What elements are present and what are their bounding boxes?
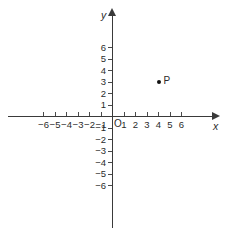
- origin-label: O: [114, 119, 122, 129]
- y-axis-tick: [108, 59, 112, 60]
- x-axis-tick: [147, 112, 148, 116]
- plotted-point-p-label: P: [164, 76, 171, 86]
- y-axis-tick-label: 3: [88, 77, 106, 87]
- y-axis-arrowhead-icon: [108, 8, 116, 16]
- y-axis-tick: [108, 139, 112, 140]
- y-axis-tick: [108, 82, 112, 83]
- x-axis-tick: [181, 112, 182, 116]
- x-axis-tick: [170, 112, 171, 116]
- y-axis-tick: [108, 105, 112, 106]
- x-axis-tick: [135, 112, 136, 116]
- y-axis-tick: [108, 70, 112, 71]
- y-axis-tick: [108, 185, 112, 186]
- y-axis-tick: [108, 174, 112, 175]
- x-axis-arrowhead-icon: [212, 112, 220, 120]
- x-axis-tick-label: 6: [173, 120, 191, 130]
- x-axis-tick: [55, 112, 56, 116]
- y-axis-tick: [108, 162, 112, 163]
- y-axis-tick-label: 5: [88, 54, 106, 64]
- x-axis-tick: [89, 112, 90, 116]
- y-axis-tick-label: 2: [88, 89, 106, 99]
- y-axis-tick: [108, 151, 112, 152]
- y-axis-line: [112, 14, 113, 228]
- y-axis-tick-label: 6: [88, 43, 106, 53]
- x-axis-tick: [158, 112, 159, 116]
- y-axis-tick: [108, 93, 112, 94]
- x-axis-tick: [43, 112, 44, 116]
- y-axis-tick-label: −1: [88, 123, 106, 133]
- y-axis-tick-label: 4: [88, 66, 106, 76]
- x-axis-tick: [101, 112, 102, 116]
- y-axis-tick-label: −5: [88, 169, 106, 179]
- y-axis-tick-label: −2: [88, 135, 106, 145]
- x-axis-label: x: [213, 121, 218, 132]
- y-axis-tick-label: −3: [88, 146, 106, 156]
- x-axis-tick: [78, 112, 79, 116]
- x-axis-tick: [124, 112, 125, 116]
- x-axis-tick: [66, 112, 67, 116]
- y-axis-label: y: [101, 10, 106, 21]
- plotted-point-p: [157, 80, 161, 84]
- coordinate-plane: −6−5−4−3−2−1123456654321−1−2−3−4−5−6 O x…: [0, 0, 226, 235]
- y-axis-tick: [108, 128, 112, 129]
- y-axis-tick: [108, 47, 112, 48]
- y-axis-tick-label: −6: [88, 181, 106, 191]
- y-axis-tick-label: 1: [88, 100, 106, 110]
- y-axis-tick-label: −4: [88, 158, 106, 168]
